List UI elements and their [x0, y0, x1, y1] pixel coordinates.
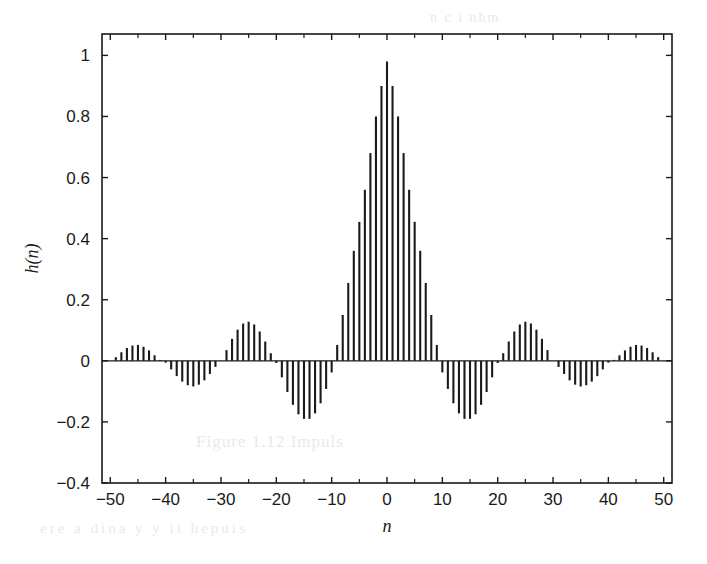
y-tick-label: 0.6: [66, 169, 90, 188]
x-tick-label: 40: [599, 490, 618, 509]
x-tick-label: −50: [96, 490, 125, 509]
x-tick-label: −40: [151, 490, 180, 509]
x-tick-label: 20: [488, 490, 507, 509]
y-tick-label: 0.4: [66, 230, 90, 249]
y-tick-label: 0.8: [66, 107, 90, 126]
y-tick-label: 0.2: [66, 291, 90, 310]
y-tick-label: −0.4: [56, 474, 90, 493]
y-tick-label: 1: [81, 46, 90, 65]
stem-series: [110, 61, 663, 418]
x-axis-title: n: [383, 516, 392, 536]
x-tick-label: −20: [262, 490, 291, 509]
y-tick-label: 0: [81, 352, 90, 371]
stem-plot: −50−40−30−20−1001020304050−0.4−0.200.20.…: [0, 0, 707, 564]
x-tick-label: −10: [317, 490, 346, 509]
x-tick-label: 50: [654, 490, 673, 509]
figure-canvas: n c i nhm −50−40−30−20−1001020304050−0.4…: [0, 0, 707, 564]
x-tick-label: 10: [433, 490, 452, 509]
x-tick-label: 30: [544, 490, 563, 509]
x-tick-label: 0: [382, 490, 391, 509]
x-tick-label: −30: [207, 490, 236, 509]
y-axis-title-group: h(n): [22, 244, 43, 274]
y-axis-title: h(n): [22, 244, 43, 274]
y-tick-label: −0.2: [56, 413, 90, 432]
